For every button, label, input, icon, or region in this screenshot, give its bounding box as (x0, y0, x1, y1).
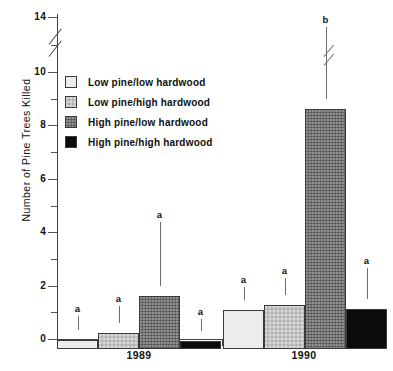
error-bar (78, 316, 79, 329)
legend-label: Low pine/low hardwood (88, 77, 206, 88)
bar-1990-sw-lphh (264, 305, 305, 349)
y-tick-major (48, 232, 57, 233)
significance-letter: a (116, 293, 121, 304)
significance-letter: a (364, 255, 369, 266)
significance-letter: a (198, 306, 203, 317)
bar-1989-sw-lplh (57, 340, 98, 349)
significance-letter: a (241, 274, 246, 285)
significance-letter: a (157, 209, 162, 220)
y-tick-label: 0 (20, 333, 46, 344)
y-tick-label: 2 (20, 280, 46, 291)
bar-1989-sw-hplh (139, 296, 180, 349)
bar-1989-sw-lphh (98, 333, 139, 349)
x-axis-group-divider (222, 339, 223, 346)
significance-letter: a (282, 265, 287, 276)
y-tick-label: 6 (20, 173, 46, 184)
chart-figure: Number of Pine Trees Killed 024681014 aa… (0, 0, 393, 371)
error-bar (160, 222, 161, 286)
y-tick-label: 14 (20, 11, 46, 22)
bar-1990-sw-hplh (305, 109, 346, 349)
y-tick-label: 4 (20, 226, 46, 237)
legend-item: High pine/low hardwood (65, 112, 213, 132)
legend-item: High pine/high hardwood (65, 132, 213, 152)
y-tick-major (48, 339, 57, 340)
significance-letter: b (322, 14, 328, 25)
error-bar (285, 278, 286, 295)
bar-1989-sw-hphh (180, 341, 221, 349)
legend-swatch-low-pine-low-hardwood (65, 76, 77, 88)
y-tick-major (48, 179, 57, 180)
y-tick-label: 8 (20, 119, 46, 130)
legend-swatch-high-pine-high-hardwood (65, 136, 77, 148)
x-tick-label: 1990 (292, 349, 317, 361)
legend-label: High pine/low hardwood (88, 117, 208, 128)
legend-swatch-high-pine-low-hardwood (65, 116, 77, 128)
legend-item: Low pine/low hardwood (65, 72, 213, 92)
legend-label: Low pine/high hardwood (88, 97, 210, 108)
y-tick-major (48, 286, 57, 287)
significance-letter: a (75, 303, 80, 314)
bar-1990-sw-hphh (346, 309, 387, 349)
legend-swatch-low-pine-high-hardwood (65, 96, 77, 108)
error-bar (201, 319, 202, 331)
chart-legend: Low pine/low hardwood Low pine/high hard… (65, 72, 213, 152)
y-tick-major (48, 72, 57, 73)
y-tick-label: 10 (20, 66, 46, 77)
y-tick-major (48, 17, 57, 18)
y-tick-major (48, 125, 57, 126)
x-tick-label: 1989 (127, 349, 152, 361)
error-bar-break-icon (324, 56, 338, 74)
error-bar (367, 268, 368, 299)
bar-1990-sw-lplh (223, 310, 264, 349)
plot-area: aaaaaaba (57, 10, 383, 340)
legend-item: Low pine/high hardwood (65, 92, 213, 112)
error-bar (244, 287, 245, 300)
error-bar (119, 306, 120, 323)
legend-label: High pine/high hardwood (88, 137, 213, 148)
